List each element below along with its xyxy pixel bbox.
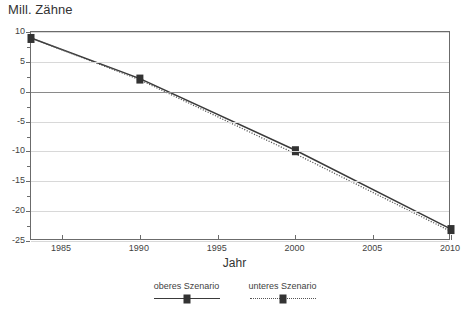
x-tick-1995 — [218, 235, 219, 240]
plot-area — [30, 31, 450, 240]
gridline-y--10 — [31, 151, 449, 152]
x-tick-2000 — [295, 235, 296, 240]
x-tick-label: 1995 — [194, 244, 240, 253]
x-tick-2010 — [451, 235, 452, 240]
x-tick-label: 1985 — [38, 244, 84, 253]
gridline-y--25 — [31, 241, 449, 242]
x-tick-2005 — [373, 235, 374, 240]
chart-figure: Mill. Zähne 1050-5-10-15-20-25 198519901… — [0, 0, 469, 314]
x-tick-label: 2005 — [349, 244, 395, 253]
gridline-y-5 — [31, 62, 449, 63]
y-tick-label: -5 — [0, 117, 25, 126]
data-point-marker — [28, 34, 35, 43]
gridline-y-0 — [31, 92, 449, 93]
legend-swatch — [246, 293, 320, 304]
y-tick-minor — [27, 226, 30, 227]
y-tick-0 — [26, 92, 30, 93]
data-point-marker — [448, 225, 455, 234]
chart-legend: oberes Szenariounteres Szenario — [0, 281, 469, 304]
legend-swatch — [150, 293, 224, 304]
legend-marker-icon — [279, 294, 286, 303]
legend-marker-icon — [183, 294, 190, 303]
y-tick--25 — [26, 241, 30, 242]
y-tick-label: -10 — [0, 146, 25, 155]
y-tick-label: -20 — [0, 206, 25, 215]
series-line-lower — [31, 38, 451, 231]
x-tick-1990 — [140, 235, 141, 240]
x-tick-label: 1990 — [116, 244, 162, 253]
y-tick--10 — [26, 151, 30, 152]
y-tick-minor — [27, 47, 30, 48]
y-tick--20 — [26, 211, 30, 212]
x-tick-label: 2000 — [271, 244, 317, 253]
x-tick-label: 2010 — [427, 244, 469, 253]
y-tick-minor — [27, 196, 30, 197]
legend-item-lower[interactable]: unteres Szenario — [246, 281, 320, 304]
x-tick-1985 — [62, 235, 63, 240]
gridline-y--20 — [31, 211, 449, 212]
y-tick--5 — [26, 122, 30, 123]
y-tick-minor — [27, 166, 30, 167]
legend-label: oberes Szenario — [154, 281, 220, 292]
gridline-y-10 — [31, 32, 449, 33]
y-tick-label: -15 — [0, 176, 25, 185]
y-tick-label: 10 — [0, 27, 25, 36]
y-tick-10 — [26, 32, 30, 33]
gridline-y--15 — [31, 181, 449, 182]
gridline-y--5 — [31, 122, 449, 123]
y-tick-minor — [27, 77, 30, 78]
y-tick-minor — [27, 137, 30, 138]
legend-label: unteres Szenario — [248, 281, 316, 292]
legend-item-upper[interactable]: oberes Szenario — [150, 281, 224, 304]
y-tick-label: 0 — [0, 87, 25, 96]
y-tick-label: -25 — [0, 236, 25, 245]
y-tick--15 — [26, 181, 30, 182]
y-axis-title: Mill. Zähne — [8, 2, 73, 17]
y-tick-label: 5 — [0, 57, 25, 66]
data-point-marker — [136, 75, 143, 84]
y-tick-5 — [26, 62, 30, 63]
x-axis-title: Jahr — [0, 256, 469, 270]
series-lines — [31, 32, 451, 241]
y-tick-minor — [27, 107, 30, 108]
